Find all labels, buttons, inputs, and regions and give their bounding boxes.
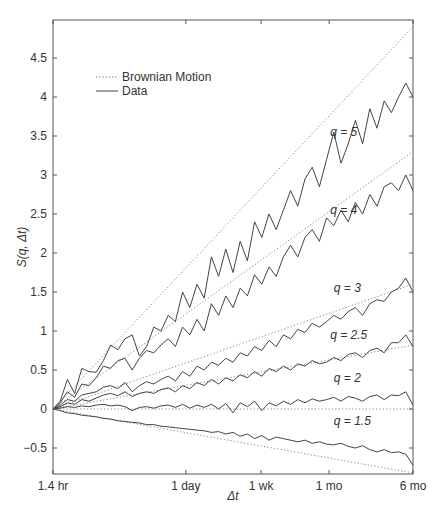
- x-tick-label: 1.4 hr: [38, 479, 69, 493]
- x-axis-label: Δt: [226, 489, 239, 503]
- data-line: [53, 392, 413, 413]
- series-label: q = 1.5: [334, 414, 371, 428]
- y-tick-label: 4.5: [30, 51, 47, 65]
- series-label: q = 2.5: [330, 328, 367, 342]
- y-axis: −0.500.511.522.533.544.5: [23, 51, 413, 455]
- data-lines: [53, 83, 413, 465]
- legend-label-brownian: Brownian Motion: [122, 70, 211, 84]
- plot-frame: [53, 20, 413, 474]
- series-label: q = 2: [334, 371, 361, 385]
- y-tick-label: 0: [40, 402, 47, 416]
- y-tick-label: 4: [40, 90, 47, 104]
- series-label: q = 4: [330, 203, 357, 217]
- data-line: [53, 83, 413, 409]
- y-axis-label: S(q, Δt): [15, 227, 29, 268]
- y-tick-label: 3: [40, 168, 47, 182]
- y-tick-label: 1.5: [30, 285, 47, 299]
- legend-label-data: Data: [122, 84, 148, 98]
- chart: q = 5q = 4q = 3q = 2.5q = 2q = 1.5 −0.50…: [0, 0, 441, 520]
- y-tick-label: 2.5: [30, 207, 47, 221]
- brownian-line: [53, 284, 413, 409]
- x-tick-label: 1 day: [171, 479, 200, 493]
- series-labels: q = 5q = 4q = 3q = 2.5q = 2q = 1.5: [330, 125, 371, 428]
- series-label: q = 5: [330, 125, 357, 139]
- legend: Brownian Motion Data: [96, 70, 211, 98]
- series-label: q = 3: [334, 281, 361, 295]
- brownian-motion-lines: [53, 27, 413, 473]
- y-tick-label: 0.5: [30, 363, 47, 377]
- x-tick-label: 1 wk: [249, 479, 275, 493]
- x-tick-label: 1 mo: [316, 479, 343, 493]
- y-tick-label: 3.5: [30, 129, 47, 143]
- y-tick-label: −0.5: [23, 441, 47, 455]
- x-tick-label: 6 mo: [400, 479, 427, 493]
- y-tick-label: 2: [40, 246, 47, 260]
- y-tick-label: 1: [40, 324, 47, 338]
- data-line: [53, 278, 413, 409]
